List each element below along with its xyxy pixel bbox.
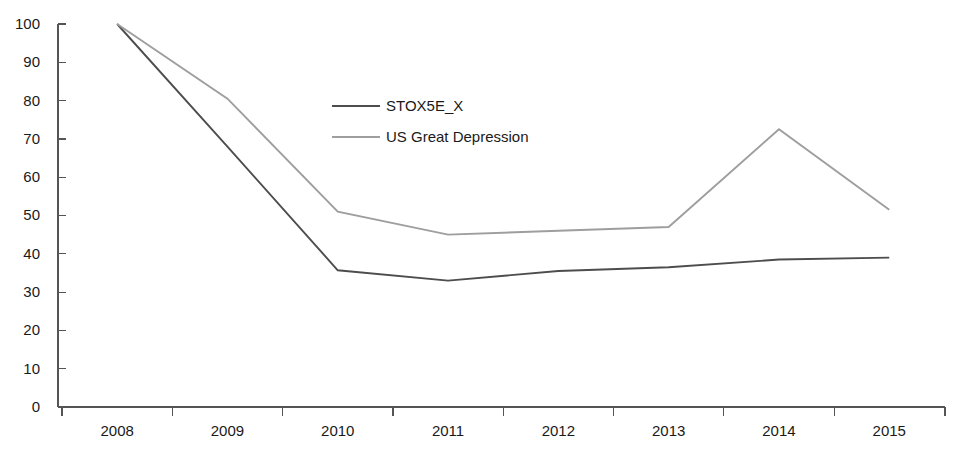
y-axis-tick-label: 10 [23, 360, 40, 377]
y-axis-tick-label: 40 [23, 245, 40, 262]
chart-legend: STOX5E_XUS Great Depression [332, 97, 529, 145]
x-axis-tick-label: 2015 [873, 422, 906, 439]
x-axis: 20082009201020112012201320142015 [58, 407, 945, 439]
y-axis-tick-label: 30 [23, 283, 40, 300]
y-axis-tick-label: 60 [23, 168, 40, 185]
y-axis-tick-label: 20 [23, 321, 40, 338]
x-axis-tick-label: 2009 [211, 422, 244, 439]
x-axis-tick-label: 2008 [100, 422, 133, 439]
x-axis-tick-label: 2010 [321, 422, 354, 439]
x-axis-tick-label: 2012 [542, 422, 575, 439]
y-axis-tick-label: 0 [32, 398, 40, 415]
legend-item-us-great-depression-label: US Great Depression [386, 128, 529, 145]
y-axis-tick-label: 80 [23, 92, 40, 109]
line-chart-figure: 0102030405060708090100 20082009201020112… [0, 0, 963, 463]
y-axis-tick-label: 100 [15, 15, 40, 32]
y-axis-tick-label: 50 [23, 206, 40, 223]
x-axis-tick-label: 2011 [432, 422, 464, 439]
x-axis-tick-label: 2014 [762, 422, 795, 439]
chart-canvas: 0102030405060708090100 20082009201020112… [0, 0, 963, 463]
series-line-stox5e-x [117, 24, 889, 281]
data-series-group [117, 24, 889, 281]
x-axis-tick-label: 2013 [652, 422, 685, 439]
y-axis: 0102030405060708090100 [15, 15, 66, 415]
legend-item-stox5e-x-label: STOX5E_X [386, 97, 463, 114]
y-axis-tick-label: 90 [23, 53, 40, 70]
y-axis-tick-label: 70 [23, 130, 40, 147]
